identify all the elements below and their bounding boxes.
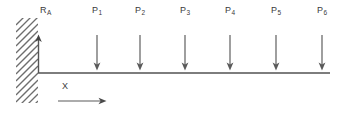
reaction-label: RA <box>40 6 51 15</box>
load-label-p3-main: P <box>180 5 186 15</box>
load-label-p4: P4 <box>225 6 235 15</box>
load-arrow-p6 <box>319 35 326 71</box>
load-arrow-p4 <box>227 35 234 71</box>
load-arrow-p1 <box>94 35 101 71</box>
load-label-p3-sub: 3 <box>186 9 190 16</box>
load-arrow-p2 <box>137 35 144 71</box>
load-label-p4-sub: 4 <box>231 9 235 16</box>
load-label-p2-main: P <box>135 5 141 15</box>
reaction-label-main: R <box>40 5 47 15</box>
fixed-support-hatching <box>16 3 38 119</box>
load-label-p5-sub: 5 <box>277 9 281 16</box>
reaction-label-sub: A <box>47 9 52 16</box>
x-axis-arrow <box>58 98 107 104</box>
load-label-p6: P6 <box>317 6 327 15</box>
x-axis-label: X <box>62 82 68 91</box>
load-label-p5: P5 <box>271 6 281 15</box>
load-label-p2-sub: 2 <box>141 9 145 16</box>
load-label-p5-main: P <box>271 5 277 15</box>
load-arrow-p3 <box>182 35 189 71</box>
load-label-p1: P1 <box>92 6 102 15</box>
load-label-p1-sub: 1 <box>98 9 102 16</box>
load-label-p4-main: P <box>225 5 231 15</box>
load-label-p2: P2 <box>135 6 145 15</box>
load-arrow-p5 <box>273 35 280 71</box>
load-label-p3: P3 <box>180 6 190 15</box>
diagram-canvas <box>0 0 346 119</box>
load-label-p6-main: P <box>317 5 323 15</box>
load-label-p1-main: P <box>92 5 98 15</box>
cantilever-beam-diagram: RA P1 P2 P3 P4 P5 P6 X <box>0 0 346 119</box>
load-label-p6-sub: 6 <box>323 9 327 16</box>
